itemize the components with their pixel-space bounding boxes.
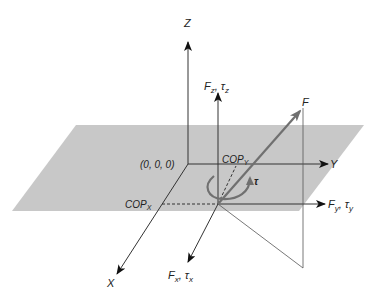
- z-axis-label: Z: [183, 17, 192, 29]
- force-plate-diagram: Z Y X (0, 0, 0) Fz, τz F COPY τ COPX Fy,…: [0, 0, 374, 295]
- f-resultant-label: F: [302, 96, 310, 108]
- fx-axis: [188, 204, 218, 262]
- x-axis-label: X: [106, 277, 115, 289]
- projection-line-diag: [218, 204, 303, 268]
- fx-tx-label: Fx, τx: [168, 269, 194, 284]
- y-axis-label: Y: [330, 158, 338, 170]
- origin-label: (0, 0, 0): [140, 159, 174, 170]
- fy-ty-label: Fy, τy: [328, 198, 354, 213]
- fz-tz-label: Fz, τz: [204, 80, 229, 95]
